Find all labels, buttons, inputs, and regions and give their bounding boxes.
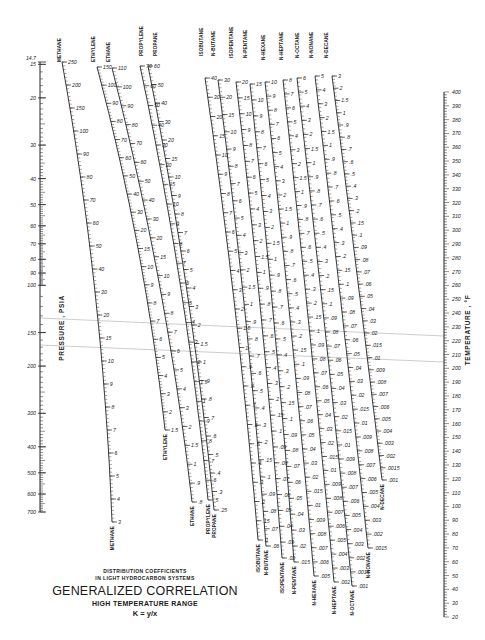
component-name-bottom: N-HEXANE xyxy=(312,580,317,606)
k-value-label: .04 xyxy=(309,446,316,452)
nomograph-chart: 14.7152030405060708090100150200300400500… xyxy=(0,0,485,640)
k-value-label: .07 xyxy=(271,526,279,532)
k-value-label: .009 xyxy=(315,517,325,523)
k-value-label: .09 xyxy=(360,244,367,250)
k-value-label: 80 xyxy=(132,122,138,128)
k-value-label: .7 xyxy=(268,317,273,323)
k-value-label: .07 xyxy=(320,370,328,376)
k-value-label: .08 xyxy=(348,309,355,315)
k-value-label: 9 xyxy=(178,193,181,199)
k-value-label: .008 xyxy=(376,379,386,385)
k-value-label: .015 xyxy=(312,488,322,494)
k-value-label: .09 xyxy=(302,375,309,381)
k-value-label: 2 xyxy=(325,115,329,121)
k-value-label: .02 xyxy=(340,414,347,420)
k-value-label: .4 xyxy=(352,183,356,189)
temperature-tick-label: 290 xyxy=(451,241,461,247)
k-value-label: .003 xyxy=(339,565,349,571)
k-value-label: 8 xyxy=(112,404,115,410)
temperature-tick-label: 370 xyxy=(452,130,461,136)
component-name-bottom: N-BUTANE xyxy=(264,550,269,575)
k-value-label: .4 xyxy=(216,470,220,476)
k-value-label: 1 xyxy=(313,160,316,166)
k-value-label: .02 xyxy=(311,474,318,480)
k-value-label: .9 xyxy=(252,319,256,325)
k-value-label: .9 xyxy=(264,285,268,291)
scale-noctane: 654321.51.9.8.7.6.5.4.3.2.15.1.09.08.07.… xyxy=(295,32,370,615)
k-value-label: .007 xyxy=(378,391,389,397)
k-value-label: .8 xyxy=(304,216,308,222)
k-value-label: .006 xyxy=(349,498,359,504)
k-value-label: .002 xyxy=(372,531,382,537)
k-value-label: .5 xyxy=(308,258,312,264)
k-value-label: .006 xyxy=(335,523,345,529)
k-value-label: 6 xyxy=(232,229,235,235)
k-value-label: .3 xyxy=(324,258,328,264)
k-value-label: .06 xyxy=(294,479,301,485)
k-value-label: .4 xyxy=(260,405,264,411)
k-value-label: 250 xyxy=(67,59,77,65)
k-value-label: .01 xyxy=(329,467,336,473)
k-value-label: 5 xyxy=(255,190,258,196)
k-value-label: .002 xyxy=(355,555,365,561)
k-value-label: .2 xyxy=(342,253,346,259)
k-value-label: .03 xyxy=(310,460,317,466)
k-value-label: .02 xyxy=(299,543,306,549)
k-value-label: .07 xyxy=(292,463,300,469)
k-value-label: 70 xyxy=(90,197,96,203)
k-value-label: 2 xyxy=(282,192,286,198)
k-value-label: .002 xyxy=(385,453,395,459)
k-value-label: .003 xyxy=(384,440,394,446)
scale-methane: 250200150100908070605040302015109876543M… xyxy=(57,38,121,550)
k-value-label: .04 xyxy=(324,412,331,418)
temperature-tick-label: 100 xyxy=(452,503,461,509)
k-value-label: .08 xyxy=(269,508,276,514)
k-value-label: .004 xyxy=(369,503,379,509)
k-value-label: 2 xyxy=(339,85,343,91)
k-value-label: .7 xyxy=(317,202,322,208)
k-value-label: 4 xyxy=(306,103,309,109)
k-value-label: 30 xyxy=(153,216,159,222)
k-value-label: .001 xyxy=(358,583,368,589)
k-value-label: .08 xyxy=(331,329,338,335)
k-value-label: 9 xyxy=(151,282,154,288)
k-value-label: .003 xyxy=(354,541,364,547)
k-value-label: .015 xyxy=(300,559,310,565)
k-value-label: 5 xyxy=(234,248,237,254)
temperature-tick-label: 180 xyxy=(452,393,461,399)
k-value-label: 80 xyxy=(87,174,93,180)
k-value-label: 1 xyxy=(301,189,304,195)
temperature-tick-label: 250 xyxy=(451,296,461,302)
k-value-label: 5 xyxy=(116,473,119,479)
k-value-label: .4 xyxy=(295,305,299,311)
pressure-tick-label: 150 xyxy=(27,330,36,336)
k-value-label: 8 xyxy=(261,129,264,135)
k-value-label: .8 xyxy=(208,396,212,402)
k-value-label: 1 xyxy=(263,269,266,275)
k-value-label: 10 xyxy=(175,174,181,180)
component-name-bottom: N-DECANE xyxy=(380,484,385,510)
k-value-label: .8 xyxy=(346,134,350,140)
k-value-label: 1.5 xyxy=(341,97,348,103)
component-name-top: METHANE xyxy=(57,38,62,62)
temperature-tick-label: 140 xyxy=(452,448,461,454)
temperature-tick-label: 350 xyxy=(452,158,461,164)
k-value-label: .09 xyxy=(330,315,337,321)
k-value-label: .15 xyxy=(299,347,306,353)
k-value-label: .15 xyxy=(314,314,321,320)
k-value-label: 4 xyxy=(192,319,195,325)
temperature-tick-label: 80 xyxy=(452,531,458,537)
chart-title-block: DISTRIBUTION COEFFICIENTS IN LIGHT HYDRO… xyxy=(40,568,250,619)
k-value-label: 15 xyxy=(160,254,166,260)
pressure-tick-label: 50 xyxy=(30,202,36,208)
k-value-label: .9 xyxy=(331,156,335,162)
k-value-label: .15 xyxy=(327,287,334,293)
temperature-tick-label: 190 xyxy=(452,379,461,385)
k-value-label: 100 xyxy=(123,84,132,90)
subtitle-line-2: IN LIGHT HYDROCARBON SYSTEMS xyxy=(40,575,250,582)
k-value-label: 4 xyxy=(295,133,298,139)
k-value-label: 7 xyxy=(229,210,233,216)
k-value-label: 1.5 xyxy=(285,206,292,212)
k-value-label: .007 xyxy=(333,509,344,515)
k-value-label: .06 xyxy=(306,418,313,424)
